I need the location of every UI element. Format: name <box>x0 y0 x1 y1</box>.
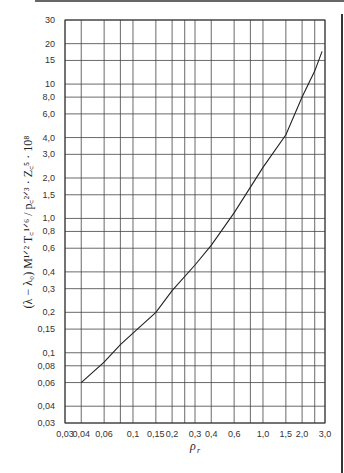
x-tick-label: 0,4 <box>205 429 218 439</box>
x-tick-label: 0,3 <box>189 429 202 439</box>
y-tick-label: 0,03 <box>37 418 55 428</box>
x-axis-ticks: 0,030,040,060,10,150,20,30,40,61,01,52,0… <box>56 429 331 439</box>
y-tick-label: 30 <box>45 15 55 25</box>
y-tick-label: 0,04 <box>37 401 55 411</box>
y-tick-label: 0,2 <box>42 307 55 317</box>
x-tick-label: 0,1 <box>127 429 140 439</box>
y-tick-label: 0,08 <box>37 361 55 371</box>
y-tick-label: 0,15 <box>37 324 55 334</box>
x-tick-label: 0,06 <box>95 429 113 439</box>
x-axis-title: ρ r <box>189 439 201 455</box>
x-axis-label: ρ <box>189 439 196 453</box>
y-axis-ticks: 302015108,06,04,03,02,01,51,00,80,60,40,… <box>37 15 55 428</box>
x-tick-label: 1,5 <box>280 429 293 439</box>
x-tick-label: 0,03 <box>56 429 74 439</box>
x-tick-label: 0,6 <box>228 429 241 439</box>
x-tick-label: 2,0 <box>296 429 309 439</box>
y-axis-label: (λ − λ₀) M¹ᐟ² T꜀¹ᐟ⁶ / p꜀²ᐟ³ · Z꜀⁵ · 10⁸ <box>21 136 35 309</box>
y-tick-label: 15 <box>45 55 55 65</box>
x-tick-label: 0,04 <box>72 429 90 439</box>
x-tick-label: 3,0 <box>319 429 332 439</box>
y-tick-label: 1,0 <box>42 213 55 223</box>
x-tick-label: 0,2 <box>166 429 179 439</box>
y-tick-label: 0,06 <box>37 378 55 388</box>
y-tick-label: 10 <box>45 79 55 89</box>
y-tick-label: 1,5 <box>42 190 55 200</box>
y-tick-label: 4,0 <box>42 133 55 143</box>
y-tick-label: 2,0 <box>42 173 55 183</box>
x-axis-label-subscript: r <box>197 446 201 455</box>
y-tick-label: 0,6 <box>42 243 55 253</box>
y-tick-label: 0,1 <box>42 348 55 358</box>
y-tick-label: 20 <box>45 39 55 49</box>
x-tick-label: 1,0 <box>257 429 270 439</box>
y-axis-title: (λ − λ₀) M¹ᐟ² T꜀¹ᐟ⁶ / p꜀²ᐟ³ · Z꜀⁵ · 10⁸ <box>21 136 35 309</box>
log-log-chart: 0,030,040,060,10,150,20,30,40,61,01,52,0… <box>0 0 344 473</box>
y-tick-label: 0,3 <box>42 284 55 294</box>
x-tick-label: 0,15 <box>147 429 165 439</box>
y-tick-label: 3,0 <box>42 149 55 159</box>
y-tick-label: 6,0 <box>42 109 55 119</box>
y-tick-label: 0,4 <box>42 267 55 277</box>
y-tick-label: 8,0 <box>42 92 55 102</box>
y-tick-label: 0,8 <box>42 226 55 236</box>
